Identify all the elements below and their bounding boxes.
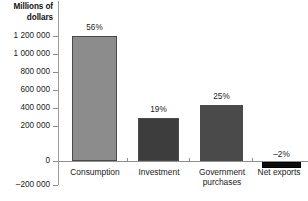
bar-government-purchases (200, 105, 243, 161)
y-tick-label: 1 000 000 (0, 50, 50, 58)
bar-investment (138, 118, 179, 161)
y-tick-label: 600 000 (0, 86, 50, 94)
bar-chart: Millions of dollars 1 200 000 1 000 000 … (0, 0, 308, 201)
y-tick-label: 1 200 000 (0, 32, 50, 40)
x-category-label-investment: Investment (126, 167, 192, 177)
bar-value-label-consumption: 56% (72, 24, 117, 32)
y-tick-mark (53, 36, 58, 37)
y-tick-label: –200 000 (0, 181, 50, 189)
y-tick-label: 400 000 (0, 104, 50, 112)
y-tick-mark (53, 90, 58, 91)
bar-consumption (72, 36, 117, 161)
bar-value-label-net-exports: –2% (262, 151, 301, 159)
x-tick-mark (252, 158, 253, 162)
y-tick-mark (53, 185, 58, 186)
y-tick-mark (53, 108, 58, 109)
y-tick-mark (53, 54, 58, 55)
x-category-label-net-exports: Net exports (250, 167, 308, 177)
bar-value-label-investment: 19% (138, 106, 179, 114)
x-category-label-government-purchases: Government (186, 167, 258, 177)
y-axis-line (58, 1, 59, 185)
x-tick-mark (127, 158, 128, 162)
x-category-label-government-purchases-line2: purchases (186, 177, 258, 187)
bar-value-label-government-purchases: 25% (200, 93, 243, 101)
y-axis-title: Millions of dollars (0, 2, 53, 23)
x-category-label-consumption: Consumption (60, 167, 130, 177)
y-tick-label: 200 000 (0, 122, 50, 130)
x-tick-mark (189, 158, 190, 162)
y-tick-mark (53, 72, 58, 73)
y-tick-label: 0 (0, 157, 50, 165)
y-tick-label: 800 000 (0, 68, 50, 76)
y-tick-mark (53, 161, 58, 162)
y-tick-mark (53, 126, 58, 127)
